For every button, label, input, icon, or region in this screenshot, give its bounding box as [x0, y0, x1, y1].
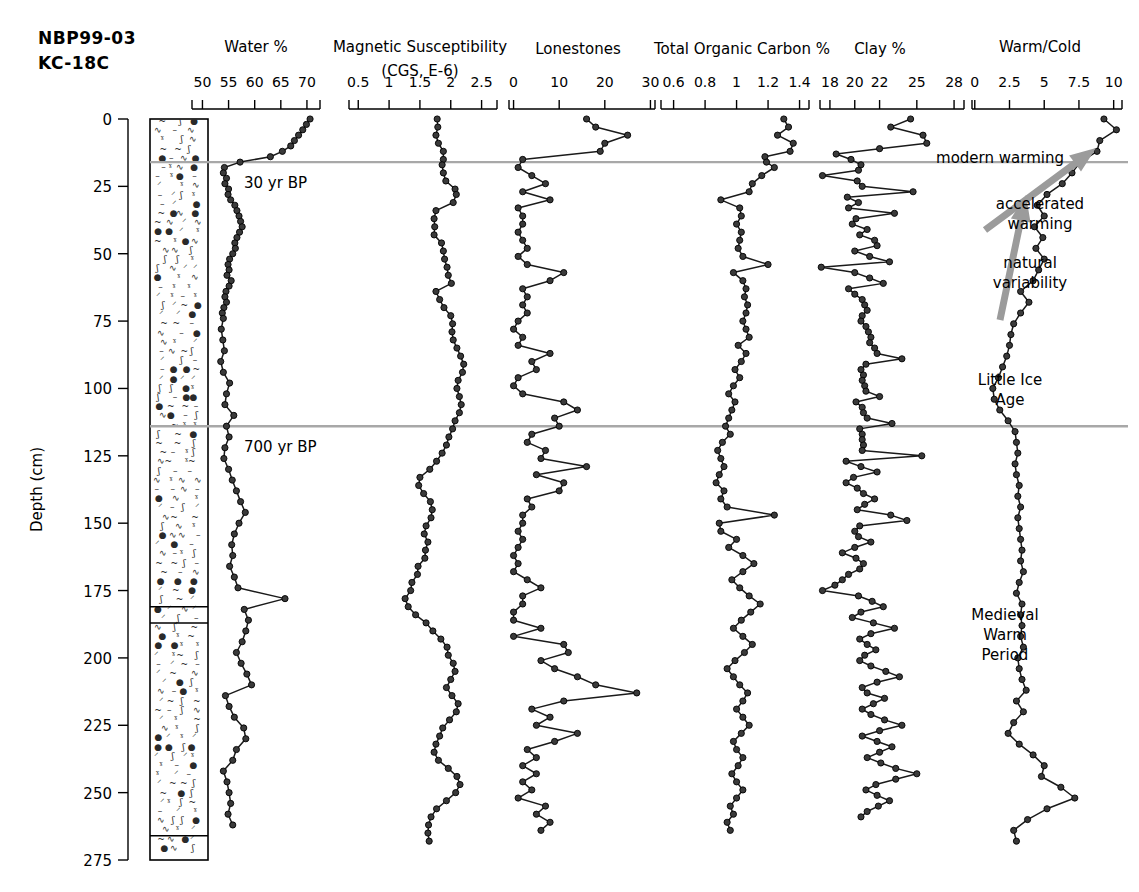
data-point: [625, 132, 631, 138]
data-point: [740, 633, 746, 639]
data-point: [737, 585, 743, 591]
data-point: [529, 431, 535, 437]
data-point: [1005, 418, 1011, 424]
data-point: [873, 781, 879, 787]
lithology-glyph: ●: [165, 226, 173, 236]
data-point: [863, 388, 869, 394]
lithology-glyph: ⸍: [156, 291, 161, 301]
value-tick-label: 10: [1105, 74, 1123, 90]
panel-title-magnetic-susceptibility: Magnetic Susceptibility: [333, 38, 507, 56]
data-point: [583, 464, 589, 470]
data-point: [839, 550, 845, 556]
data-point: [874, 243, 880, 249]
data-point: [520, 189, 526, 195]
data-point: [843, 458, 849, 464]
data-point: [533, 722, 539, 728]
depth-tick-label: 25: [93, 178, 112, 196]
little-ice-age-label: Little Ice: [978, 371, 1042, 389]
data-point: [852, 248, 858, 254]
data-point: [288, 143, 294, 149]
data-point: [860, 490, 866, 496]
depth-tick-label: 200: [83, 650, 112, 668]
data-point: [438, 240, 444, 246]
data-point: [453, 709, 459, 715]
depth-tick-label: 75: [93, 313, 112, 331]
data-point: [515, 544, 521, 550]
data-point: [432, 224, 438, 230]
panel-title-lonestones: Lonestones: [535, 40, 621, 58]
data-point: [220, 337, 226, 343]
value-tick-label: 28: [945, 74, 963, 90]
data-point: [849, 221, 855, 227]
data-point: [443, 684, 449, 690]
data-point: [874, 792, 880, 798]
data-point: [520, 520, 526, 526]
data-point: [790, 140, 796, 146]
data-point: [510, 633, 516, 639]
data-point: [547, 714, 553, 720]
data-point: [858, 609, 864, 615]
data-point: [727, 827, 733, 833]
data-point: [524, 245, 530, 251]
data-point: [738, 358, 744, 364]
data-point: [1008, 331, 1014, 337]
data-point: [529, 172, 535, 178]
data-point: [449, 329, 455, 335]
data-point: [899, 722, 905, 728]
data-point: [520, 779, 526, 785]
data-point: [746, 189, 752, 195]
data-point: [223, 423, 229, 429]
data-point: [438, 636, 444, 642]
data-point: [415, 563, 421, 569]
depth-axis: 0255075100125150175200225250275Depth (cm…: [28, 111, 128, 870]
data-point: [230, 822, 236, 828]
data-point: [602, 140, 608, 146]
data-point: [1012, 428, 1018, 434]
lithology-glyph: ʃ: [182, 558, 186, 568]
data-point: [433, 288, 439, 294]
data-point: [1016, 482, 1022, 488]
data-point: [429, 507, 435, 513]
data-point: [844, 194, 850, 200]
data-point: [874, 469, 880, 475]
data-point: [1006, 342, 1012, 348]
data-point: [858, 318, 864, 324]
value-tick-label: 1.2: [757, 74, 779, 90]
depth-tick-label: 50: [93, 246, 112, 264]
value-tick-label: 55: [220, 74, 238, 90]
lithology-glyph: ʃ: [181, 502, 185, 512]
data-point: [726, 391, 732, 397]
data-point: [1004, 353, 1010, 359]
data-point: [735, 763, 741, 769]
data-point: [889, 420, 895, 426]
data-point: [441, 256, 447, 262]
data-point: [1072, 795, 1078, 801]
core-id: NBP99-03KC-18C: [38, 28, 136, 73]
data-point: [454, 345, 460, 351]
data-point: [759, 172, 765, 178]
data-point: [733, 779, 739, 785]
data-point: [443, 442, 449, 448]
panel-total-organic-carbon: Total Organic Carbon %0.60.811.21.4: [653, 40, 830, 833]
data-point: [1019, 676, 1025, 682]
data-point: [859, 706, 865, 712]
value-tick-label: 1: [732, 74, 741, 90]
data-point: [852, 291, 858, 297]
data-point: [818, 264, 824, 270]
data-point: [724, 504, 730, 510]
data-point: [230, 552, 236, 558]
data-point: [458, 353, 464, 359]
data-point: [1016, 741, 1022, 747]
data-point: [524, 439, 530, 445]
data-point: [520, 601, 526, 607]
lithology-glyph: ʃ: [171, 815, 175, 825]
value-tick-label: 0.5: [347, 74, 369, 90]
medieval-warm-period-label: Period: [982, 646, 1029, 664]
data-point: [444, 264, 450, 270]
data-point: [233, 649, 239, 655]
data-point: [433, 208, 439, 214]
data-point: [593, 682, 599, 688]
data-point: [819, 172, 825, 178]
lithology-glyph: –: [173, 125, 178, 135]
data-point: [868, 663, 874, 669]
